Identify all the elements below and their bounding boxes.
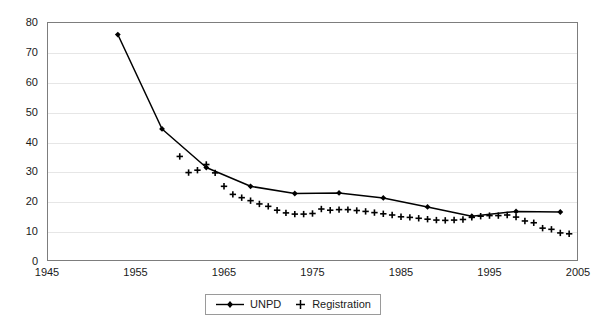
legend-plus-icon — [294, 299, 307, 310]
x-tick-label: 1965 — [212, 267, 236, 278]
legend-entry-unpd: UNPD — [215, 299, 281, 310]
chart-container: 01020304050607080 1945195519651975198519… — [0, 0, 607, 325]
chart-legend: UNPD Registration — [205, 294, 381, 315]
legend-line-diamond-icon — [215, 299, 245, 310]
x-tick-label: 1995 — [477, 267, 501, 278]
x-tick-label: 1985 — [389, 267, 413, 278]
x-tick-label: 1955 — [123, 267, 147, 278]
x-tick-label: 1945 — [35, 267, 59, 278]
x-tick-label: 2005 — [566, 267, 590, 278]
x-axis: 1945195519651975198519952005 — [0, 0, 607, 325]
legend-entry-registration: Registration — [294, 299, 371, 310]
legend-label-unpd: UNPD — [250, 299, 281, 310]
legend-label-registration: Registration — [312, 299, 371, 310]
x-tick-label: 1975 — [300, 267, 324, 278]
